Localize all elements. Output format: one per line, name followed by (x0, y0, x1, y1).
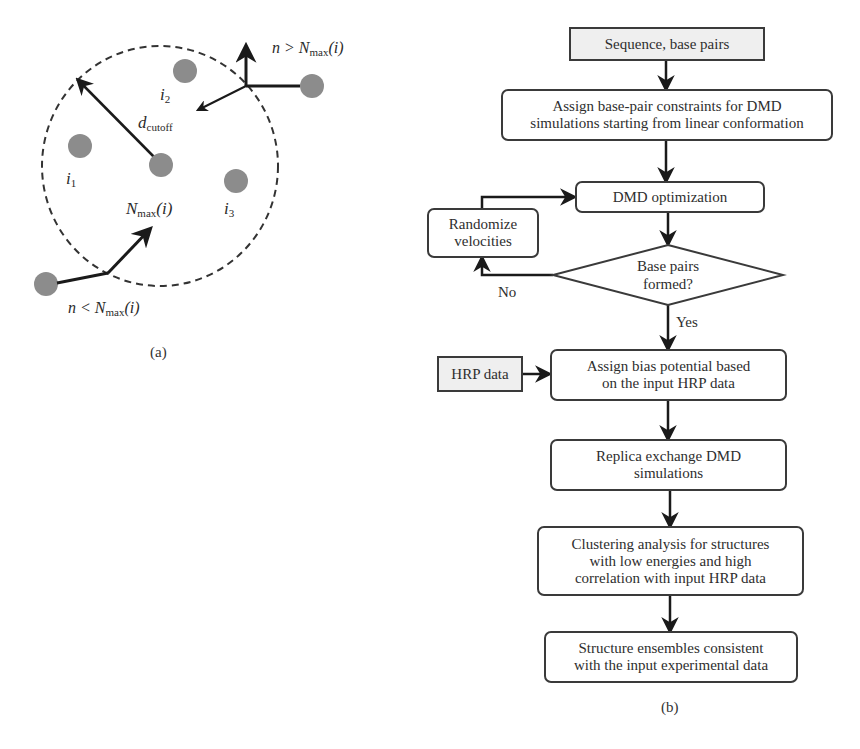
label-n-less-nmax: n < Nmax(i) (68, 300, 140, 318)
incoming-path-line-bottom-left (57, 273, 108, 283)
n-greater-subscript: max (309, 46, 328, 58)
arrow-randomize-to-optimization (482, 197, 574, 208)
node-randomize-line2: velocities (454, 233, 511, 250)
arrow-decision-no-to-randomize (482, 258, 553, 275)
cutoff-subscript: cutoff (147, 121, 173, 133)
n-less-argument: (i) (124, 299, 139, 316)
node-clustering-line1: Clustering analysis for structures (572, 536, 770, 553)
n-greater-argument: (i) (328, 39, 343, 56)
particle-outside-bottom-left (34, 272, 58, 296)
label-d-cutoff: dcutoff (138, 114, 173, 133)
nmax-N-symbol: N (126, 199, 137, 218)
i3-subscript: 3 (229, 207, 235, 219)
edge-label-yes: Yes (676, 314, 698, 331)
i2-subscript: 2 (165, 93, 171, 105)
blocked-entry-arrow (198, 86, 246, 110)
node-decision-base-pairs: Base pairs formed? (608, 257, 728, 293)
caption-panel-a: (a) (150, 344, 167, 361)
n-less-prefix: n < N (68, 299, 105, 316)
panel-a-diagram (34, 46, 324, 296)
node-clustering-line2: with low energies and high (589, 553, 751, 570)
node-dmd-optimization: DMD optimization (575, 181, 765, 213)
n-less-subscript: max (105, 306, 124, 318)
node-assign-bias-line2: on the input HRP data (602, 375, 735, 392)
label-i1: i1 (66, 170, 76, 189)
node-input-sequence: Sequence, base pairs (569, 27, 765, 61)
nmax-argument: (i) (156, 199, 172, 218)
node-assign-constraints-line2: simulations starting from linear conform… (530, 115, 803, 132)
node-input-sequence-text: Sequence, base pairs (605, 36, 730, 53)
node-randomize-line1: Randomize (449, 216, 517, 233)
caption-panel-b: (b) (661, 699, 679, 716)
node-decision-line2: formed? (608, 275, 728, 293)
node-replica-line1: Replica exchange DMD (596, 448, 741, 465)
node-assign-bias: Assign bias potential based on the input… (550, 349, 787, 401)
node-replica-line2: simulations (634, 465, 703, 482)
label-n-greater-nmax: n > Nmax(i) (272, 40, 344, 58)
node-clustering-line3: correlation with input HRP data (575, 570, 766, 587)
label-i3: i3 (224, 200, 234, 219)
node-structure-ensembles: Structure ensembles consistent with the … (544, 631, 798, 683)
particle-center-i (149, 153, 173, 177)
node-dmd-optimization-text: DMD optimization (613, 189, 728, 206)
node-ensembles-line1: Structure ensembles consistent (579, 640, 764, 657)
node-clustering-analysis: Clustering analysis for structures with … (537, 526, 804, 596)
particle-i3 (224, 169, 248, 193)
node-assign-constraints: Assign base-pair constraints for DMD sim… (501, 89, 833, 141)
particle-i1 (68, 134, 92, 158)
i1-subscript: 1 (71, 177, 77, 189)
label-nmax-center: Nmax(i) (126, 200, 172, 219)
label-i2: i2 (160, 86, 170, 105)
nmax-subscript: max (137, 207, 156, 219)
node-hrp-data-text: HRP data (451, 366, 508, 383)
d-symbol: d (138, 113, 147, 132)
node-hrp-data: HRP data (437, 356, 523, 392)
particle-i2 (173, 59, 197, 83)
node-decision-line1: Base pairs (608, 257, 728, 275)
edge-label-no: No (498, 284, 516, 301)
node-assign-constraints-line1: Assign base-pair constraints for DMD (552, 98, 781, 115)
node-ensembles-line2: with the input experimental data (574, 657, 768, 674)
entry-arrow-into-sphere (108, 229, 150, 273)
n-greater-prefix: n > N (272, 39, 309, 56)
particle-outside-right (300, 74, 324, 98)
node-replica-exchange: Replica exchange DMD simulations (550, 439, 787, 491)
node-randomize-velocities: Randomize velocities (427, 208, 539, 258)
node-assign-bias-line1: Assign bias potential based (587, 358, 751, 375)
